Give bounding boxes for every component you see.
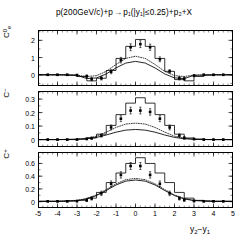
x-tick-label: -3 — [74, 210, 80, 217]
x-tick-label: 0 — [134, 210, 138, 217]
panel-top-plot — [38, 30, 233, 86]
panel-bottom-axis-title: C+ — [2, 149, 11, 158]
panel-bottom-plot — [38, 152, 233, 208]
y-tick-label: 0 — [0, 136, 35, 143]
y-tick-label: 0 — [0, 198, 35, 205]
panel-bottom — [38, 152, 233, 208]
y-tick-label: 1 — [0, 54, 35, 61]
x-tick-label: 5 — [231, 210, 235, 217]
y-tick-label: 0.6 — [0, 160, 35, 167]
y-tick-label: 0 — [0, 71, 35, 78]
panel-middle — [38, 91, 233, 147]
figure-title: p(200GeV/c)+p→p₁(|y₁|≤0.25)+p₂+X — [0, 8, 248, 17]
x-tick-label: -5 — [35, 210, 41, 217]
x-tick-label: 1 — [153, 210, 157, 217]
y-tick-label: 0.2 — [0, 109, 35, 116]
figure-root: p(200GeV/c)+p→p₁(|y₁|≤0.25)+p₂+X C0e C− … — [0, 0, 248, 246]
title-beam: p(200GeV/c)+p — [56, 8, 113, 17]
title-products: p₁(|y₁|≤0.25)+p₂+X — [123, 8, 192, 17]
x-tick-label: -2 — [93, 210, 99, 217]
x-tick-label: -4 — [54, 210, 60, 217]
title-arrow-icon: → — [113, 8, 123, 17]
x-tick-label: -1 — [113, 210, 119, 217]
x-tick-label: 4 — [212, 210, 216, 217]
x-tick-label: 2 — [173, 210, 177, 217]
y-tick-label: 0.4 — [0, 173, 35, 180]
x-axis-title: y2−y1 — [190, 224, 210, 235]
y-tick-label: 2 — [0, 37, 35, 44]
x-tick-label: 3 — [192, 210, 196, 217]
panel-middle-plot — [38, 91, 233, 147]
y-tick-label: 0.3 — [0, 96, 35, 103]
y-tick-label: 0.2 — [0, 185, 35, 192]
panel-top — [38, 30, 233, 86]
y-tick-label: 0.1 — [0, 123, 35, 130]
